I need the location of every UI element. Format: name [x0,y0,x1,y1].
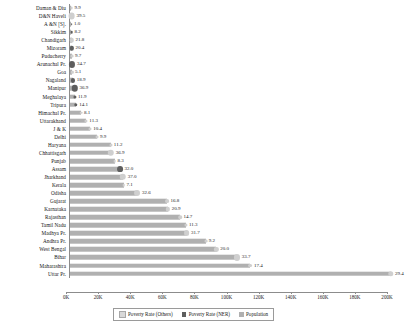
poverty-rate-value: 11.2 [114,142,123,148]
poverty-rate-value: 16.8 [171,198,180,204]
population-bar [70,143,111,148]
poverty-rate-marker [95,135,98,138]
poverty-rate-value: 11.3 [89,118,98,124]
chart-row: Tamil Nadu11.3 [0,221,405,229]
chart-row: Meghalaya11.9 [0,93,405,101]
row-bar-area: 20.0 [69,245,405,253]
poverty-rate-value: 9.7 [75,54,81,60]
chart-row: Uttar Pr.29.4 [0,270,405,278]
category-label: Sikkim [0,29,69,35]
category-label: Uttarakhand [0,118,69,124]
poverty-rate-value: 21.8 [76,37,85,43]
population-bar [70,215,180,220]
poverty-rate-value: 32.0 [125,166,134,172]
category-label: Arunachal Pr. [0,61,69,67]
category-label: Bihar [0,254,69,260]
poverty-rate-value: 5.1 [75,70,81,76]
poverty-rate-value: 10.4 [93,126,102,132]
row-bar-area: 31.7 [69,229,405,237]
poverty-rate-value: 9.2 [209,239,215,245]
chart-row: Punjab8.3 [0,157,405,165]
poverty-rate-marker [71,71,73,73]
category-label: Andhra Pr. [0,238,69,244]
chart-row: Karnataka20.9 [0,205,405,213]
poverty-rate-value: 11.9 [78,94,87,100]
x-axis-tick-label: 160K [317,294,328,300]
row-bar-area: 14.1 [69,101,405,109]
category-label: Goa [0,69,69,75]
category-label: Madhya Pr. [0,230,69,236]
chart-row: Madhya Pr.31.7 [0,229,405,237]
row-bar-area: 20.4 [69,44,405,52]
poverty-rate-value: 29.4 [395,271,404,277]
population-bar [70,239,206,244]
poverty-rate-value: 20.9 [172,206,181,212]
row-bar-area: 9.9 [69,4,405,12]
row-bar-area: 8.3 [69,157,405,165]
chart-row: Uttarakhand11.3 [0,117,405,125]
chart-row: Odisha32.6 [0,189,405,197]
category-label: Chandigarh [0,37,69,43]
population-bar [70,199,167,204]
population-bar [70,223,186,228]
poverty-rate-value: 9.9 [75,5,81,11]
row-bar-area: 8.1 [69,109,405,117]
x-axis-tick-label: 120K [253,294,264,300]
chart-row: Maharashtra17.4 [0,262,405,270]
poverty-rate-marker [108,150,114,156]
x-axis-tick-label: 180K [349,294,360,300]
x-axis-tick-label: 60K [158,294,167,300]
poverty-rate-marker [248,264,252,268]
chart-row: Gujarat16.8 [0,197,405,205]
row-bar-area: 32.0 [69,165,405,173]
poverty-rate-value: 20.4 [76,46,85,52]
category-label: Manipur [0,85,69,91]
poverty-rate-value: 14.1 [79,102,88,108]
population-bar [70,151,111,156]
chart-row: A &N [S].1.0 [0,20,405,28]
poverty-rate-marker [166,207,170,211]
chart-row: Kerala7.1 [0,181,405,189]
poverty-rate-marker [178,215,182,219]
poverty-rate-marker [71,55,74,58]
row-bar-area: 5.1 [69,68,405,76]
poverty-rate-marker [70,7,73,10]
x-axis-tick-label: 100K [221,294,232,300]
poverty-rate-marker [73,95,76,98]
poverty-rate-marker [234,254,240,260]
x-axis-tick-label: 0K [63,294,69,300]
row-bar-area: 37.0 [69,173,405,181]
plot-area: Daman & Diu9.9D&N Haveli39.5A &N [S].1.0… [0,4,405,292]
poverty-rate-marker [70,31,73,34]
poverty-rate-marker [165,199,169,203]
chart-row: Nagaland18.9 [0,76,405,84]
poverty-rate-marker [134,190,140,196]
category-label: Uttar Pr. [0,271,69,277]
poverty-rate-marker [71,78,75,82]
poverty-rate-value: 20.0 [220,247,229,253]
chart-row: Puducherry9.7 [0,52,405,60]
row-bar-area: 36.9 [69,149,405,157]
chart-row: Assam32.0 [0,165,405,173]
category-label: Tamil Nadu [0,222,69,228]
row-bar-area: 34.7 [69,60,405,68]
category-label: Rajasthan [0,214,69,220]
poverty-rate-value: 36.9 [116,150,125,156]
category-label: Gujarat [0,198,69,204]
poverty-rate-value: 18.9 [77,78,86,84]
poverty-rate-marker [68,13,75,20]
population-bar [70,191,137,196]
poverty-rate-marker [89,127,92,130]
poverty-rate-value: 8.1 [84,110,90,116]
row-bar-area: 20.9 [69,205,405,213]
chart-row: Jharkhand37.0 [0,173,405,181]
category-label: D&N Haveli [0,13,69,19]
chart-row: D&N Haveli39.5 [0,12,405,20]
legend-label-population: Population [246,311,268,317]
legend-swatch-poverty-ner [182,312,187,317]
population-bar [70,255,237,260]
row-bar-area: 11.3 [69,221,405,229]
row-bar-area: 9.7 [69,52,405,60]
category-label: Himachal Pr. [0,110,69,116]
poverty-rate-marker [80,111,83,114]
